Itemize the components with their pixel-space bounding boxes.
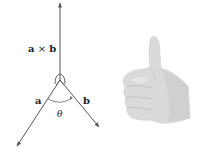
theta-arc bbox=[48, 98, 72, 102]
vector-a bbox=[17, 80, 60, 146]
label-a: a bbox=[35, 95, 42, 106]
label-theta: θ bbox=[57, 109, 63, 119]
cross-product-diagram: a × b a b θ bbox=[0, 0, 205, 155]
thumbs-up-hand-icon bbox=[123, 36, 190, 123]
theta-arc-arrow bbox=[70, 96, 73, 100]
label-b: b bbox=[83, 95, 90, 106]
vector-b bbox=[60, 80, 99, 127]
label-a-cross-b: a × b bbox=[28, 43, 56, 54]
